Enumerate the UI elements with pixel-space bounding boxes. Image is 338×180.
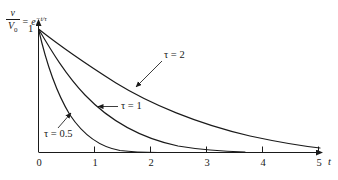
x-axis-tick-label-4: 4	[257, 158, 269, 169]
x-axis-tick-label-2: 2	[145, 158, 157, 169]
fraction-denominator: V0	[6, 20, 20, 34]
x-axis-tick-label-5: 5	[313, 158, 325, 169]
y-axis-tick-label-1: 1	[28, 24, 33, 35]
annotation-tau-05: τ = 0.5	[44, 129, 73, 140]
x-axis-tick-label-0: 0	[33, 158, 45, 169]
x-axis-tick-label-1: 1	[89, 158, 101, 169]
annotation-tau-1: τ = 1	[121, 101, 142, 112]
curve-tau-2	[39, 29, 321, 148]
fraction-numerator: v	[9, 8, 17, 19]
fraction-v-over-v0: v V0	[6, 8, 20, 34]
annotation-tau-2: τ = 2	[164, 50, 185, 61]
equation-label: v V0 = e−t/τ	[6, 8, 47, 34]
leader-line-tau-05	[58, 113, 71, 128]
chart-canvas	[0, 0, 338, 180]
exponential-decay-figure: v V0 = e−t/τ 1 0 1 2 3 4 5 t τ = 2 τ = 1…	[0, 0, 338, 180]
x-axis-tick-label-3: 3	[201, 158, 213, 169]
leader-line-tau-2	[136, 61, 162, 87]
exponential-term: e−t/τ	[31, 15, 47, 27]
x-axis-variable-label: t	[328, 157, 331, 168]
